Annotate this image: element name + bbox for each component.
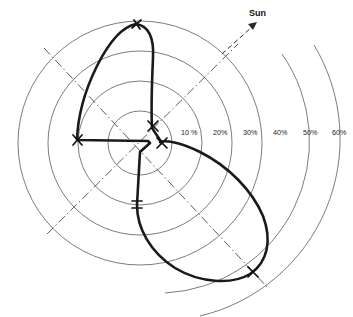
- radial-label-40: 40%: [273, 128, 288, 137]
- grid-circle-20: [78, 81, 202, 205]
- grid-arc-60: [200, 45, 340, 316]
- polar-chart-figure: 10 % 20% 30% 40% 50% 60% Sun: [0, 0, 353, 317]
- shadow-path-curve: [77, 24, 268, 281]
- radial-label-50: 50%: [303, 128, 318, 137]
- grid-circles: [18, 21, 262, 265]
- radial-label-30: 30%: [243, 128, 258, 137]
- radial-tick-labels: 10 % 20% 30% 40% 50% 60%: [181, 128, 347, 137]
- sun-arrow-head-icon: [248, 22, 257, 30]
- sun-label: Sun: [249, 8, 266, 18]
- data-curve-group: [77, 24, 268, 281]
- radial-label-20: 20%: [213, 128, 228, 137]
- sun-direction-arrow: [222, 22, 257, 54]
- grid-arc-50: [165, 54, 309, 293]
- radial-label-60: 60%: [332, 128, 347, 137]
- grid-circle-40: [18, 21, 262, 265]
- sun-arrow-shaft: [222, 26, 253, 54]
- polar-chart-canvas: 10 % 20% 30% 40% 50% 60% Sun: [0, 0, 353, 317]
- radial-label-10: 10 %: [181, 128, 198, 137]
